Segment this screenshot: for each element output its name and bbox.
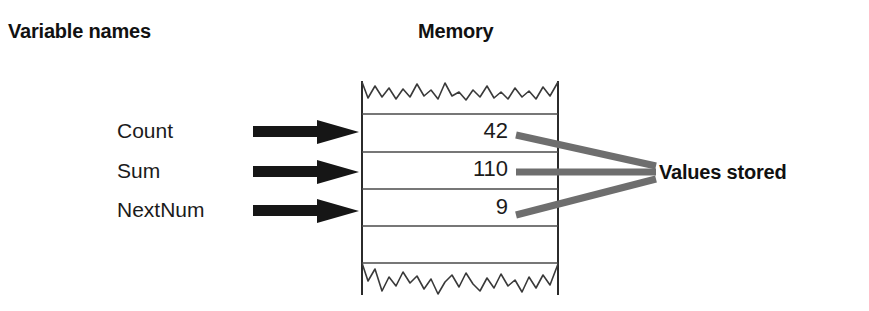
right-arrow-icon-count <box>253 120 359 144</box>
variable-name-nextnum: NextNum <box>117 198 205 222</box>
connector-line-nextnum <box>516 179 656 215</box>
memory-cell-value-1: 42 <box>368 118 508 144</box>
connector-line-count <box>516 135 656 166</box>
values-stored-connectors <box>516 135 656 215</box>
memory-cell-value-2: 110 <box>368 156 508 182</box>
pointer-arrows-group <box>253 120 359 223</box>
memory-cell-value-3: 9 <box>368 194 508 220</box>
right-arrow-icon-sum <box>253 160 359 184</box>
label-values-stored: Values stored <box>659 161 786 184</box>
variable-name-sum: Sum <box>117 159 160 183</box>
memory-top-torn-edge <box>362 82 558 100</box>
memory-box <box>362 81 558 295</box>
right-arrow-icon-nextnum <box>253 199 359 223</box>
diagram-canvas: Variable names Memory <box>0 0 869 311</box>
memory-bottom-torn-edge <box>362 263 558 294</box>
variable-name-count: Count <box>117 119 173 143</box>
